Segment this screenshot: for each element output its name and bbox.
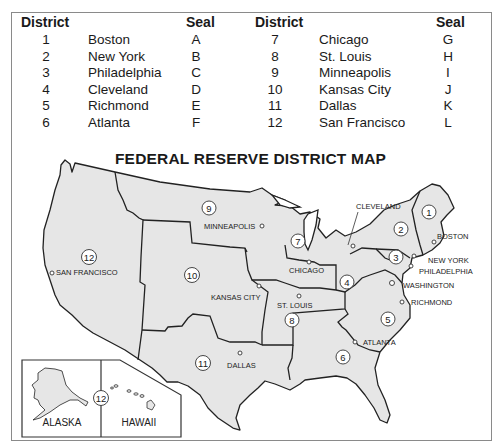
district-marker-10: 10 <box>185 268 200 283</box>
city-dot-dallas <box>238 351 242 355</box>
hawaii-label: HAWAII <box>122 417 157 428</box>
district-number-label: 5 <box>385 314 390 325</box>
district-number-label: 11 <box>198 358 208 369</box>
district-marker-2: 2 <box>394 222 408 236</box>
us-map: 1 2 3 4 5 6 7 8 9 10 11 12 BOSTON NEW YO… <box>0 0 501 447</box>
city-dot-boston <box>432 240 436 244</box>
district-number-label: 12 <box>84 252 95 263</box>
city-label-cleveland: CLEVELAND <box>356 202 401 211</box>
district-marker-4: 4 <box>340 275 354 289</box>
city-label-st-louis: ST. LOUIS <box>277 301 312 310</box>
city-dot-atlanta <box>353 340 357 344</box>
district-number-label: 8 <box>289 315 294 326</box>
district-number-label: 2 <box>398 224 403 235</box>
district-number-label: 4 <box>344 277 349 288</box>
city-dot-san-francisco <box>50 271 54 275</box>
city-label-washington: WASHINGTON <box>403 281 454 290</box>
district-marker-12: 12 <box>82 250 97 265</box>
district-marker-3: 3 <box>389 250 403 264</box>
inset-district-number: 12 <box>96 393 107 404</box>
city-dot-st-louis <box>297 294 301 298</box>
city-label-kansas-city: KANSAS CITY <box>211 293 261 302</box>
city-dot-richmond <box>400 300 404 304</box>
district-number-label: 3 <box>393 252 398 263</box>
city-dot-kansas-city <box>257 284 261 288</box>
district-marker-11: 11 <box>196 356 211 371</box>
city-label-minneapolis: MINNEAPOLIS <box>204 222 255 231</box>
city-dot-minneapolis <box>260 224 264 228</box>
district-number-label: 7 <box>295 236 300 247</box>
district-number-label: 10 <box>187 270 198 281</box>
city-dot-washington <box>390 281 395 286</box>
city-label-philadelphia: PHILADELPHIA <box>419 267 473 276</box>
district-number-label: 9 <box>206 203 211 214</box>
district-marker-7: 7 <box>291 234 305 248</box>
alaska-label: ALASKA <box>43 417 82 428</box>
district-marker-8: 8 <box>285 313 299 327</box>
city-label-richmond: RICHMOND <box>411 298 453 307</box>
city-label-san-francisco: SAN FRANCISCO <box>56 268 118 277</box>
district-marker-9: 9 <box>202 201 216 215</box>
district-number-label: 1 <box>426 207 431 218</box>
district-marker-5: 5 <box>381 312 395 326</box>
city-dot-chicago <box>307 260 311 264</box>
district-number-label: 6 <box>340 352 345 363</box>
city-label-chicago: CHICAGO <box>289 266 324 275</box>
city-label-dallas: DALLAS <box>227 361 256 370</box>
district-marker-1: 1 <box>422 205 436 219</box>
city-dot-philadelphia <box>409 264 413 268</box>
city-label-boston: BOSTON <box>437 232 469 241</box>
district-marker-6: 6 <box>336 350 350 364</box>
city-label-new-york: NEW YORK <box>428 256 469 265</box>
city-dot-new-york <box>412 254 416 258</box>
city-dot-cleveland <box>351 244 355 248</box>
city-label-atlanta: ATLANTA <box>363 338 396 347</box>
